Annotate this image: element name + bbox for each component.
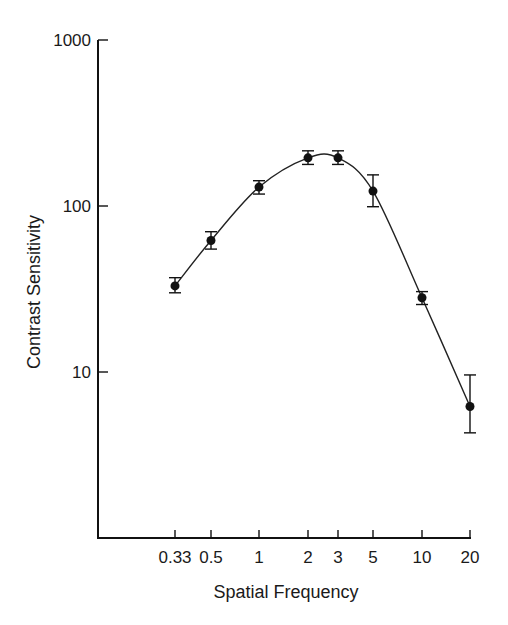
y-axis-ticks: 101001000 bbox=[53, 31, 108, 382]
y-axis-title: Contrast Sensitivity bbox=[24, 215, 44, 369]
error-bars bbox=[169, 151, 476, 433]
x-tick-label: 5 bbox=[368, 548, 377, 567]
y-tick-label: 100 bbox=[63, 197, 91, 216]
data-points bbox=[171, 153, 475, 411]
y-tick-label: 10 bbox=[72, 363, 91, 382]
data-point-marker bbox=[418, 293, 427, 302]
x-tick-label: 10 bbox=[413, 548, 432, 567]
x-tick-label: 0.33 bbox=[158, 548, 191, 567]
data-point-marker bbox=[255, 183, 264, 192]
contrast-sensitivity-chart: 101001000 0.330.512351020 Spatial Freque… bbox=[0, 0, 508, 625]
data-point-marker bbox=[171, 281, 180, 290]
data-point-marker bbox=[369, 187, 378, 196]
data-point-marker bbox=[466, 402, 475, 411]
x-axis-ticks: 0.330.512351020 bbox=[158, 530, 479, 567]
fit-curve bbox=[175, 154, 470, 407]
data-point-marker bbox=[304, 153, 313, 162]
x-axis-title: Spatial Frequency bbox=[213, 582, 358, 602]
data-point-marker bbox=[334, 153, 343, 162]
x-tick-label: 3 bbox=[333, 548, 342, 567]
x-tick-label: 20 bbox=[461, 548, 480, 567]
x-tick-label: 2 bbox=[303, 548, 312, 567]
data-point-marker bbox=[207, 236, 216, 245]
x-tick-label: 0.5 bbox=[199, 548, 223, 567]
x-tick-label: 1 bbox=[254, 548, 263, 567]
axes bbox=[97, 40, 471, 538]
y-tick-label: 1000 bbox=[53, 31, 91, 50]
